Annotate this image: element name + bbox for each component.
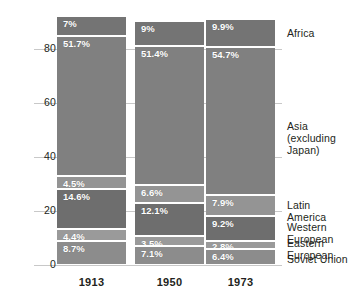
segment-label: 7.9% bbox=[212, 197, 234, 208]
y-axis: 80 60 40 20 0 bbox=[0, 0, 56, 300]
segment-1973-soviet-union[interactable]: 6.4% bbox=[206, 249, 275, 265]
segment-label: 6.4% bbox=[212, 251, 234, 262]
segment-1913-soviet-union[interactable]: 8.7% bbox=[57, 241, 126, 265]
y-tick-label-40: 40 bbox=[28, 151, 56, 162]
legend-label-soviet-union: Soviet Union bbox=[287, 253, 348, 265]
segment-label: 9.9% bbox=[212, 21, 234, 32]
x-tick-label-1950: 1950 bbox=[135, 276, 204, 288]
segment-label: 4.4% bbox=[63, 231, 85, 241]
segment-1913-asia[interactable]: 51.7% bbox=[57, 36, 126, 176]
y-tick-label-80: 80 bbox=[28, 43, 56, 54]
segment-1913-western-european[interactable]: 14.6% bbox=[57, 189, 126, 229]
segment-label: 6.6% bbox=[141, 187, 163, 198]
segment-1950-asia[interactable]: 51.4% bbox=[135, 46, 204, 185]
segment-1973-africa[interactable]: 9.9% bbox=[206, 20, 275, 47]
segment-1913-africa[interactable]: 7% bbox=[57, 17, 126, 36]
segment-1950-eastern-european[interactable]: 3.5% bbox=[135, 236, 204, 246]
segment-label: 8.7% bbox=[63, 243, 85, 254]
segment-1913-eastern-european[interactable]: 4.4% bbox=[57, 229, 126, 241]
segment-label: 51.7% bbox=[63, 38, 90, 49]
segment-1950-soviet-union[interactable]: 7.1% bbox=[135, 246, 204, 265]
x-tick-label-1973: 1973 bbox=[206, 276, 275, 288]
y-tick-label-60: 60 bbox=[28, 97, 56, 108]
segment-1973-eastern-european[interactable]: 2.8% bbox=[206, 241, 275, 249]
segment-1913-latin-america[interactable]: 4.5% bbox=[57, 176, 126, 189]
segment-1950-latin-america[interactable]: 6.6% bbox=[135, 185, 204, 203]
gridline-0 bbox=[34, 265, 282, 266]
segment-label: 2.8% bbox=[212, 241, 234, 249]
bar-1950[interactable]: 9% 51.4% 6.6% 12.1% 3.5% 7.1% bbox=[135, 22, 204, 265]
bar-1973[interactable]: 9.9% 54.7% 7.9% 9.2% 2.8% 6.4% bbox=[206, 20, 275, 265]
bar-1913[interactable]: 7% 51.7% 4.5% 14.6% 4.4% 8.7% bbox=[57, 17, 126, 265]
segment-label: 54.7% bbox=[212, 49, 239, 60]
stacked-bar-chart: 80 60 40 20 0 7% 51.7% 4.5% 14.6% 4.4% 8… bbox=[0, 0, 349, 300]
y-tick-label-0: 0 bbox=[28, 259, 56, 270]
segment-1950-western-european[interactable]: 12.1% bbox=[135, 203, 204, 236]
segment-label: 12.1% bbox=[141, 205, 168, 216]
segment-label: 9.2% bbox=[212, 218, 234, 229]
legend-label-africa: Africa bbox=[287, 27, 314, 39]
segment-label: 3.5% bbox=[141, 238, 163, 246]
segment-label: 7.1% bbox=[141, 248, 163, 259]
segment-label: 51.4% bbox=[141, 48, 168, 59]
legend-label-asia: Asia (excluding Japan) bbox=[287, 120, 349, 156]
segment-label: 7% bbox=[63, 18, 77, 29]
segment-1950-africa[interactable]: 9% bbox=[135, 22, 204, 46]
segment-1973-western-european[interactable]: 9.2% bbox=[206, 216, 275, 241]
y-tick-label-20: 20 bbox=[28, 205, 56, 216]
segment-label: 14.6% bbox=[63, 191, 90, 202]
x-tick-label-1913: 1913 bbox=[57, 276, 126, 288]
legend-label-latin-america: Latin America bbox=[287, 199, 349, 223]
segment-label: 4.5% bbox=[63, 178, 85, 189]
segment-1973-asia[interactable]: 54.7% bbox=[206, 47, 275, 195]
segment-label: 9% bbox=[141, 23, 155, 34]
segment-1973-latin-america[interactable]: 7.9% bbox=[206, 195, 275, 216]
